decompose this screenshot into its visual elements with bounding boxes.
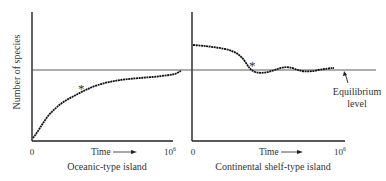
right-time-arrowhead [297,150,303,154]
right-x-tick-0: 0 [191,147,196,157]
continental-asterisk: * [249,58,256,73]
oceanic-curve [33,71,181,138]
y-axis-label: Number of species [11,34,22,109]
left-panel-title: Oceanic-type island [67,161,147,172]
left-time-arrowhead [131,150,137,154]
right-time-label: Time [259,147,279,157]
equilibrium-label-line1: Equilibrium [333,86,382,97]
equilibrium-arrowhead [343,71,347,76]
right-x-tick-max: 106 [334,146,346,157]
left-x-tick-max: 106 [164,146,176,157]
left-time-label: Time [91,147,111,157]
oceanic-asterisk: * [78,81,85,96]
species-equilibrium-chart: * * Equilibrium level Number of species … [0,0,386,181]
equilibrium-label-line2: level [347,98,367,109]
left-x-tick-0: 0 [30,147,35,157]
right-panel-title: Continental shelf-type island [215,161,331,172]
continental-curve [193,45,334,73]
